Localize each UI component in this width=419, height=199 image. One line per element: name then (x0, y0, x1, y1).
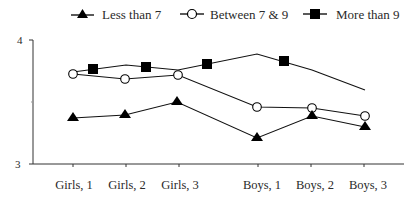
triangle-marker-icon (171, 96, 183, 105)
circle-marker-icon (174, 71, 183, 80)
series-more-than-9 (73, 54, 365, 90)
square-marker-icon (279, 56, 289, 66)
line-chart: Less than 7 Between 7 & 9 More than 9 (0, 0, 419, 199)
circle-marker-icon (180, 10, 204, 19)
legend-label: Between 7 & 9 (210, 7, 288, 22)
square-marker-icon (141, 62, 151, 72)
x-tick-label: Boys, 2 (296, 178, 334, 192)
circle-marker-icon (253, 103, 262, 112)
legend-item-between-7-9: Between 7 & 9 (180, 7, 288, 22)
legend-item-less-than-7: Less than 7 (71, 7, 162, 22)
square-marker-icon (202, 59, 212, 69)
y-tick-label-bottom: 3 (15, 158, 21, 170)
circle-marker-icon (361, 112, 370, 121)
y-tick-label-top: 4 (17, 34, 23, 46)
triangle-marker-icon (359, 121, 371, 130)
x-axis: Girls, 1 Girls, 2 Girls, 3 Boys, 1 Boys,… (29, 164, 404, 192)
circle-marker-icon (69, 70, 78, 79)
x-tick-label: Girls, 3 (161, 178, 199, 192)
series-between-7-9 (69, 70, 370, 121)
x-tick-label: Boys, 3 (349, 178, 387, 192)
series-less-than-7 (67, 96, 371, 141)
square-marker-icon (88, 64, 98, 74)
legend-item-more-than-9: More than 9 (303, 7, 400, 22)
triangle-marker-icon (67, 112, 79, 121)
x-tick-label: Girls, 2 (108, 178, 146, 192)
legend-label: More than 9 (336, 7, 400, 22)
legend-label: Less than 7 (102, 7, 162, 22)
circle-marker-icon (121, 75, 130, 84)
triangle-marker-icon (71, 9, 94, 18)
legend: Less than 7 Between 7 & 9 More than 9 (71, 7, 400, 22)
square-marker-icon (303, 9, 327, 19)
y-axis: 4 3 (15, 34, 33, 170)
x-tick-label: Girls, 1 (55, 178, 93, 192)
x-tick-label: Boys, 1 (243, 178, 281, 192)
triangle-marker-icon (306, 110, 318, 119)
